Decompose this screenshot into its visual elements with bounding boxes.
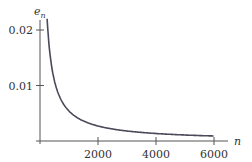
axes xyxy=(36,20,228,144)
x-tick-label: 6000 xyxy=(200,148,228,161)
y-ticks: 0.010.02 xyxy=(9,24,45,93)
y-tick-label: 0.02 xyxy=(9,24,34,37)
y-axis-label: en xyxy=(34,5,46,20)
x-tick-label: 4000 xyxy=(142,148,170,161)
series-line xyxy=(47,19,214,136)
y-tick-label: 0.01 xyxy=(9,80,34,93)
x-tick-label: 2000 xyxy=(84,148,112,161)
chart: 200040006000 0.010.02 n en xyxy=(0,0,252,162)
x-axis-label: n xyxy=(234,135,241,148)
